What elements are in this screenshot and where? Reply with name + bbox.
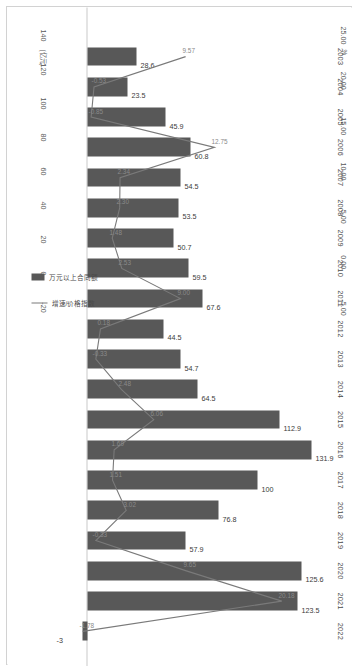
legend-line-swatch-icon bbox=[31, 301, 47, 302]
screenshot-page: 2003200420052006200720082009201020112012… bbox=[0, 0, 358, 671]
line-value-label-2003: 9.57 bbox=[182, 46, 194, 53]
line-value-label-2015: 6.06 bbox=[150, 409, 162, 416]
plot-area: 28.623.545.960.854.553.550.759.567.644.5… bbox=[7, 7, 353, 666]
line-series bbox=[7, 7, 353, 666]
chart-legend: 万元以上合同额增速/价格指数 bbox=[31, 271, 97, 323]
legend-label: 万元以上合同额 bbox=[48, 271, 97, 281]
line-value-label-2021: 20.18 bbox=[278, 591, 294, 598]
legend-item-2[interactable]: 增速/价格指数 bbox=[31, 297, 97, 307]
line-value-label-2012: 0.18 bbox=[97, 318, 109, 325]
chart-rotation-wrapper: 2003200420052006200720082009201020112012… bbox=[7, 7, 353, 666]
line-value-label-2004: -0.53 bbox=[91, 76, 106, 83]
line-value-label-2007: 2.34 bbox=[117, 167, 129, 174]
line-value-label-2014: 2.48 bbox=[118, 379, 130, 386]
legend-label: 增速/价格指数 bbox=[51, 297, 95, 307]
line-value-label-2016: 1.69 bbox=[111, 439, 123, 446]
line-value-label-2018: 3.02 bbox=[123, 500, 135, 507]
legend-item-1[interactable]: 万元以上合同额 bbox=[31, 271, 97, 281]
line-value-label-2008: 2.30 bbox=[116, 197, 128, 204]
line-value-label-2022: -1.78 bbox=[79, 621, 94, 628]
line-value-label-2017: 1.51 bbox=[109, 470, 121, 477]
line-value-label-2011: 9.00 bbox=[177, 288, 189, 295]
line-value-label-2013: -0.33 bbox=[92, 349, 107, 356]
combo-chart: 2003200420052006200720082009201020112012… bbox=[7, 7, 353, 666]
legend-bar-swatch-icon bbox=[31, 272, 44, 279]
line-value-label-2009: 1.48 bbox=[109, 228, 121, 235]
line-value-label-2010: 2.53 bbox=[118, 258, 130, 265]
line-value-label-2019: -0.33 bbox=[92, 530, 107, 537]
chart-frame: 2003200420052006200720082009201020112012… bbox=[6, 6, 352, 665]
line-value-label-2020: 9.65 bbox=[183, 560, 195, 567]
line-value-label-2006: 12.75 bbox=[211, 137, 227, 144]
line-value-label-2005: -0.85 bbox=[88, 107, 103, 114]
